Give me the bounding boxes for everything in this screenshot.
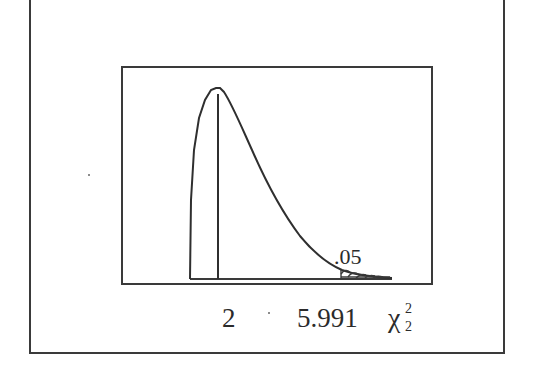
density-curve [190,88,392,279]
tail-area-label: .05 [334,246,362,268]
tail-hatch [341,270,390,279]
chi-symbol: χ [388,302,400,333]
x-tick-mean: 2 [222,305,236,332]
stray-dot [268,312,270,314]
chi-df: 2 [405,320,412,334]
stray-dot [88,174,90,176]
chi-square-plot [0,0,553,373]
x-axis-label: χ 2 2 [388,304,400,332]
chi-exponent: 2 [405,302,412,316]
x-tick-critical: 5.991 [297,305,358,332]
plot-frame [122,67,432,284]
